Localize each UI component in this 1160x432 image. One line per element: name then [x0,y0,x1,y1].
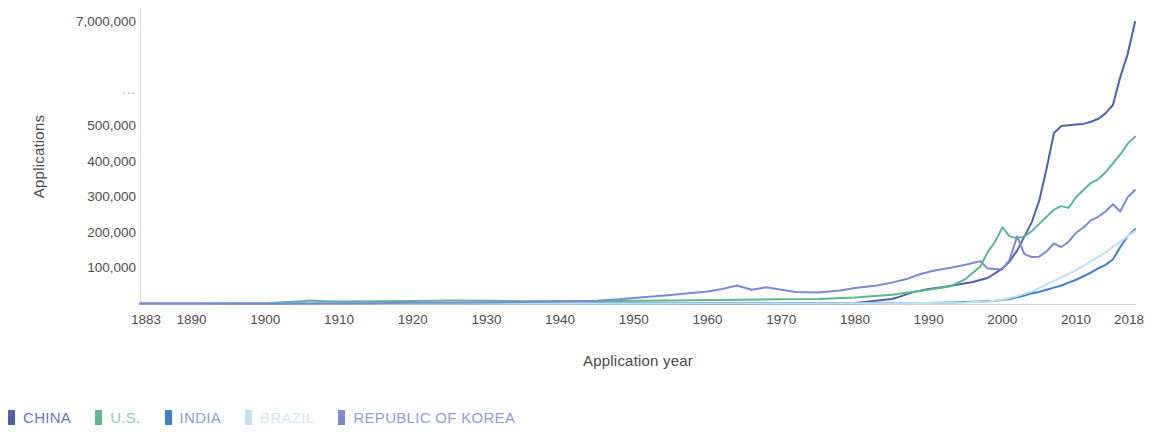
legend-item[interactable]: CHINA [8,407,71,427]
legend-item-label: INDIA [180,410,222,425]
plot-area [140,8,1135,304]
y-axis-break-label: ... [36,83,136,96]
x-axis-tick-label: 1940 [545,313,575,327]
y-axis-tick-label: 100,000 [36,261,136,275]
y-axis-tick-label: 7,000,000 [36,15,136,29]
legend-item-label: CHINA [23,410,71,425]
x-axis-tick-label: 1980 [840,313,870,327]
legend-item[interactable]: INDIA [165,407,222,427]
series-lines [140,8,1135,304]
legend-item-label: REPUBLIC OF KOREA [353,410,515,425]
series-line-republic-of-korea [140,190,1135,304]
x-axis-tick-label: 1960 [692,313,722,327]
chart-legend: CHINAU.S.INDIABRAZILREPUBLIC OF KOREA [8,407,539,427]
x-axis-tick-label: 1950 [619,313,649,327]
series-line-china [140,22,1135,304]
x-axis-tick-label: 1910 [324,313,354,327]
y-axis-tick-label: 500,000 [36,119,136,133]
legend-color-swatch-icon [338,410,345,425]
x-axis-title: Application year [140,352,1136,369]
legend-color-swatch-icon [8,410,15,425]
y-axis-tick-label: 400,000 [36,155,136,169]
x-axis-tick-label: 1920 [398,313,428,327]
applications-by-year-line-chart: Applications 100,000200,000300,000400,00… [0,0,1160,432]
x-axis-tick-labels: 1883189019001910192019301940195019601970… [140,313,1136,333]
legend-item[interactable]: U.S. [95,407,140,427]
x-axis-tick-label: 1930 [471,313,501,327]
x-axis-tick-label: 1990 [914,313,944,327]
x-axis-tick-label: 1970 [766,313,796,327]
legend-item-label: U.S. [110,410,140,425]
y-axis-tick-label: 300,000 [36,190,136,204]
legend-color-swatch-icon [245,410,252,425]
x-axis-tick-label: 1883 [131,313,161,327]
y-axis-tick-label: 200,000 [36,226,136,240]
y-axis-tick-labels: 100,000200,000300,000400,000500,000...7,… [30,0,136,310]
legend-color-swatch-icon [165,410,172,425]
x-axis-tick-label: 2000 [987,313,1017,327]
legend-item-label: BRAZIL [260,410,314,425]
legend-color-swatch-icon [95,410,102,425]
x-axis-tick-label: 2018 [1114,313,1144,327]
x-axis-tick-label: 1900 [250,313,280,327]
x-axis-tick-label: 2010 [1061,313,1091,327]
legend-item[interactable]: BRAZIL [245,407,314,427]
legend-item[interactable]: REPUBLIC OF KOREA [338,407,515,427]
x-axis-tick-label: 1890 [177,313,207,327]
